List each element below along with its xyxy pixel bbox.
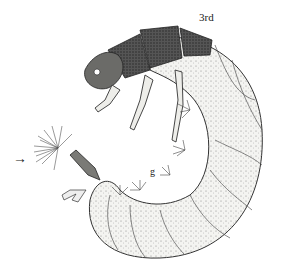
thorax-plate-3 xyxy=(180,28,212,56)
larva-illustration xyxy=(0,0,281,275)
larva-figure: 3rd g → xyxy=(0,0,281,275)
pointer-arrow-icon: → xyxy=(13,151,27,167)
bristle-tuft xyxy=(34,126,72,170)
head xyxy=(85,52,123,89)
segment-label: 3rd xyxy=(199,11,214,23)
gill-label: g xyxy=(150,166,155,177)
tail xyxy=(70,150,100,180)
